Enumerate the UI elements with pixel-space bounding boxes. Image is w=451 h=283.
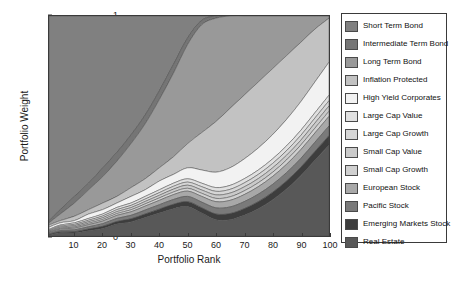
x-tick-label: 20 [97, 240, 107, 250]
x-tick-mark [330, 233, 331, 237]
chart-root: Portfolio Weight 00.10.20.30.40.50.60.70… [0, 0, 451, 283]
legend-swatch-icon [345, 147, 358, 158]
legend-label: Real Estate [363, 238, 404, 246]
legend-swatch-icon [345, 39, 358, 50]
x-tick-label: 30 [126, 240, 136, 250]
x-tick-label: 100 [322, 240, 337, 250]
legend-label: Short Term Bond [363, 22, 423, 30]
legend: Short Term BondIntermediate Term BondLon… [341, 13, 447, 243]
y-axis-label: Portfolio Weight [19, 66, 30, 186]
legend-item[interactable]: Long Term Bond [342, 53, 446, 71]
legend-swatch-icon [345, 111, 358, 122]
legend-item[interactable]: Emerging Markets Stock [342, 215, 446, 233]
x-tick-label: 90 [296, 240, 306, 250]
legend-label: European Stock [363, 184, 420, 192]
legend-swatch-icon [345, 183, 358, 194]
legend-item[interactable]: Short Term Bond [342, 17, 446, 35]
x-tick-mark [216, 233, 217, 237]
legend-label: High Yield Corporates [363, 94, 441, 102]
legend-swatch-icon [345, 165, 358, 176]
legend-label: Long Term Bond [363, 58, 422, 66]
legend-label: Inflation Protected [363, 76, 427, 84]
x-tick-label: 50 [183, 240, 193, 250]
x-tick-mark [131, 233, 132, 237]
legend-item[interactable]: Real Estate [342, 233, 446, 251]
legend-item[interactable]: Pacific Stock [342, 197, 446, 215]
legend-label: Pacific Stock [363, 202, 409, 210]
legend-swatch-icon [345, 57, 358, 68]
x-tick-label: 60 [211, 240, 221, 250]
legend-label: Large Cap Growth [363, 130, 428, 138]
x-tick-mark [159, 233, 160, 237]
x-tick-label: 80 [268, 240, 278, 250]
x-tick-label: 70 [240, 240, 250, 250]
legend-label: Intermediate Term Bond [363, 40, 448, 48]
x-tick-label: 40 [154, 240, 164, 250]
x-tick-mark [302, 233, 303, 237]
legend-swatch-icon [345, 237, 358, 248]
x-axis-label: Portfolio Rank [48, 254, 330, 265]
plot-area [48, 15, 330, 237]
legend-item[interactable]: Small Cap Growth [342, 161, 446, 179]
legend-swatch-icon [345, 129, 358, 140]
x-tick-mark [102, 233, 103, 237]
legend-item[interactable]: Large Cap Growth [342, 125, 446, 143]
legend-swatch-icon [345, 75, 358, 86]
stacked-area-svg [49, 16, 329, 236]
legend-item[interactable]: Small Cap Value [342, 143, 446, 161]
legend-item[interactable]: European Stock [342, 179, 446, 197]
legend-label: Large Cap Value [363, 112, 422, 120]
x-tick-label: 10 [69, 240, 79, 250]
x-tick-mark [74, 233, 75, 237]
x-tick-mark [188, 233, 189, 237]
legend-item[interactable]: Large Cap Value [342, 107, 446, 125]
legend-swatch-icon [345, 21, 358, 32]
legend-label: Small Cap Growth [363, 166, 428, 174]
legend-label: Emerging Markets Stock [363, 220, 450, 228]
legend-item[interactable]: Inflation Protected [342, 71, 446, 89]
legend-item[interactable]: High Yield Corporates [342, 89, 446, 107]
legend-swatch-icon [345, 93, 358, 104]
x-tick-mark [245, 233, 246, 237]
x-tick-mark [273, 233, 274, 237]
legend-item[interactable]: Intermediate Term Bond [342, 35, 446, 53]
legend-swatch-icon [345, 201, 358, 212]
legend-label: Small Cap Value [363, 148, 422, 156]
legend-swatch-icon [345, 219, 358, 230]
